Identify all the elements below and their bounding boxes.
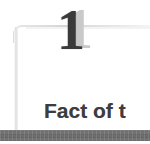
chapter-number: 1 1: [56, 1, 100, 55]
page-title: Fact of t: [44, 100, 126, 121]
document-page: 1 1 Fact of t: [0, 0, 150, 144]
page-bottom-margin: [0, 141, 150, 144]
heading-underline-bar-texture: [0, 130, 150, 141]
page-frame-left-edge: [14, 27, 18, 144]
chapter-number-glyph: 1: [57, 4, 84, 56]
